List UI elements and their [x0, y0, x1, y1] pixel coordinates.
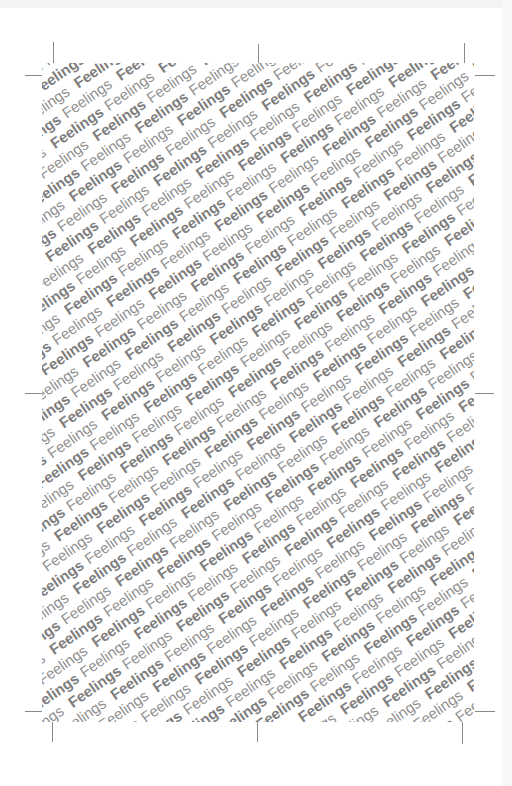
crop-mark-top-left-horizontal [25, 75, 42, 76]
crop-mark-top-right-horizontal [475, 75, 495, 76]
crop-mark-top-left-vertical [53, 42, 54, 63]
crop-mark-middle-left [25, 393, 42, 394]
crop-mark-top-center [258, 44, 259, 63]
top-band [0, 0, 512, 8]
crop-mark-bottom-left-vertical [52, 722, 53, 742]
crop-mark-bottom-right-vertical [462, 722, 463, 744]
crop-mark-bottom-left-horizontal [25, 711, 42, 712]
crop-mark-middle-right [475, 393, 494, 394]
crop-mark-top-right-vertical [464, 43, 465, 63]
right-edge-strip [502, 0, 512, 786]
crop-mark-bottom-center [257, 722, 258, 742]
crop-mark-bottom-right-horizontal [475, 711, 495, 712]
feelings-pattern-area: FeelingsFeelingsFeelingsFeelingsFeelings… [42, 63, 474, 722]
feelings-pattern: FeelingsFeelingsFeelingsFeelingsFeelings… [42, 63, 474, 722]
print-proof-page: FeelingsFeelingsFeelingsFeelingsFeelings… [0, 0, 512, 786]
